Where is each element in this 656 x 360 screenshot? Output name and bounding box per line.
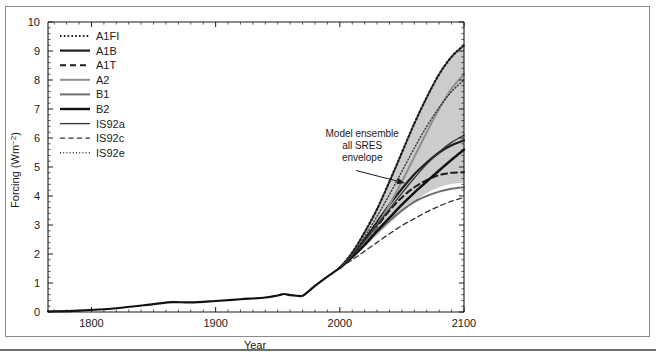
legend-item-is92e[interactable]: IS92e: [60, 147, 125, 159]
legend-label: B2: [96, 103, 109, 115]
annotation-line: envelope: [342, 152, 383, 163]
x-axis-tick-labels: 1800190020002100: [79, 317, 476, 329]
x-tick-label: 2000: [328, 317, 352, 329]
y-tick-label: 7: [34, 103, 40, 115]
legend-item-is92a[interactable]: IS92a: [60, 118, 126, 130]
legend-label: A2: [96, 74, 109, 86]
historical-forcing-curve: [48, 268, 340, 312]
y-axis-tick-labels: 012345678910: [28, 16, 40, 318]
legend-label: IS92a: [96, 118, 126, 130]
legend-item-is92c[interactable]: IS92c: [60, 132, 125, 144]
x-tick-label: 1900: [203, 317, 227, 329]
y-tick-label: 0: [34, 306, 40, 318]
annotation-line: Model ensemble: [325, 128, 399, 139]
legend-item-a1b[interactable]: A1B: [60, 45, 117, 57]
legend-item-a2[interactable]: A2: [60, 74, 109, 86]
legend-label: A1FI: [96, 30, 119, 42]
legend-label: IS92e: [96, 147, 125, 159]
legend-label: IS92c: [96, 132, 125, 144]
legend-label: A1B: [96, 45, 117, 57]
legend-item-b2[interactable]: B2: [60, 103, 109, 115]
legend-item-a1t[interactable]: A1T: [60, 59, 116, 71]
radiative-forcing-chart: 1800190020002100 012345678910 Year Forci…: [0, 0, 656, 360]
y-tick-label: 6: [34, 132, 40, 144]
y-tick-label: 3: [34, 219, 40, 231]
x-tick-label: 1800: [79, 317, 103, 329]
x-tick-label: 2100: [452, 317, 476, 329]
chart-legend: A1FIA1BA1TA2B1B2IS92aIS92cIS92e: [60, 30, 126, 159]
figure-panel: 1800190020002100 012345678910 Year Forci…: [0, 0, 656, 360]
y-tick-label: 4: [34, 190, 40, 202]
legend-item-a1fi[interactable]: A1FI: [60, 30, 119, 42]
legend-label: A1T: [96, 59, 116, 71]
y-tick-label: 10: [28, 16, 40, 28]
y-tick-label: 9: [34, 45, 40, 57]
x-axis-title: Year: [244, 339, 267, 351]
y-axis-title: Forcing (Wm−2): [9, 132, 22, 208]
annotation-line: all SRES: [342, 140, 382, 151]
y-tick-label: 5: [34, 161, 40, 173]
legend-label: B1: [96, 88, 109, 100]
legend-item-b1[interactable]: B1: [60, 88, 109, 100]
chart-plot-area: 1800190020002100 012345678910 Year Forci…: [0, 0, 656, 360]
y-tick-label: 8: [34, 74, 40, 86]
y-tick-label: 2: [34, 248, 40, 260]
y-tick-label: 1: [34, 277, 40, 289]
